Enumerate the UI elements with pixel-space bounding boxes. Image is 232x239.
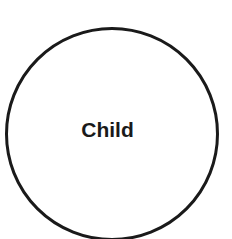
diagram-canvas: Child [0,0,232,239]
child-node-label: Child [0,118,215,142]
